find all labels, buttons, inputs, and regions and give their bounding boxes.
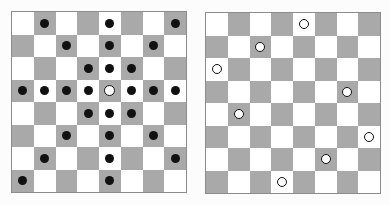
board-square[interactable] (358, 103, 380, 126)
board-square[interactable] (271, 126, 293, 149)
board-square[interactable] (143, 125, 165, 148)
board-square[interactable] (250, 81, 272, 104)
board-square[interactable] (56, 102, 78, 125)
board-square[interactable] (206, 81, 228, 104)
board-square[interactable] (164, 125, 186, 148)
board-square[interactable] (121, 57, 143, 80)
board-square[interactable] (337, 126, 359, 149)
board-square[interactable] (34, 170, 56, 193)
board-square[interactable] (228, 171, 250, 194)
board-square[interactable] (293, 171, 315, 194)
board-square[interactable] (337, 148, 359, 171)
board-square[interactable] (99, 170, 121, 193)
board-square[interactable] (99, 35, 121, 58)
board-square[interactable] (12, 170, 34, 193)
board-square[interactable] (164, 170, 186, 193)
board-square[interactable] (34, 102, 56, 125)
board-square[interactable] (56, 170, 78, 193)
board-square[interactable] (34, 147, 56, 170)
board-square[interactable] (121, 35, 143, 58)
board-square[interactable] (293, 126, 315, 149)
board-square[interactable] (206, 171, 228, 194)
board-square[interactable] (77, 125, 99, 148)
board-square[interactable] (34, 57, 56, 80)
board-square[interactable] (293, 36, 315, 59)
board-square[interactable] (271, 81, 293, 104)
board-square[interactable] (337, 81, 359, 104)
board-square[interactable] (315, 103, 337, 126)
board-square[interactable] (77, 12, 99, 35)
board-square[interactable] (143, 147, 165, 170)
board-square[interactable] (143, 57, 165, 80)
board-square[interactable] (271, 103, 293, 126)
board-square[interactable] (206, 58, 228, 81)
board-square[interactable] (12, 125, 34, 148)
board-square[interactable] (143, 102, 165, 125)
board-square[interactable] (34, 125, 56, 148)
board-square[interactable] (99, 125, 121, 148)
board-square[interactable] (12, 80, 34, 103)
board-square[interactable] (293, 58, 315, 81)
board-square[interactable] (250, 171, 272, 194)
board-square[interactable] (228, 103, 250, 126)
board-square[interactable] (99, 147, 121, 170)
board-square[interactable] (358, 58, 380, 81)
board-square[interactable] (358, 126, 380, 149)
board-square[interactable] (228, 81, 250, 104)
board-square[interactable] (250, 103, 272, 126)
board-square[interactable] (121, 12, 143, 35)
board-square[interactable] (164, 35, 186, 58)
board-square[interactable] (56, 147, 78, 170)
board-square[interactable] (143, 170, 165, 193)
board-square[interactable] (337, 13, 359, 36)
board-square[interactable] (34, 35, 56, 58)
board-square[interactable] (271, 36, 293, 59)
board-square[interactable] (77, 147, 99, 170)
board-square[interactable] (121, 102, 143, 125)
board-square[interactable] (99, 80, 121, 103)
board-square[interactable] (228, 36, 250, 59)
board-square[interactable] (164, 57, 186, 80)
board-square[interactable] (250, 148, 272, 171)
board-square[interactable] (358, 36, 380, 59)
board-square[interactable] (164, 102, 186, 125)
board-square[interactable] (206, 103, 228, 126)
board-square[interactable] (293, 81, 315, 104)
board-square[interactable] (143, 35, 165, 58)
board-square[interactable] (206, 126, 228, 149)
board-square[interactable] (12, 35, 34, 58)
board-square[interactable] (12, 147, 34, 170)
board-square[interactable] (99, 102, 121, 125)
board-square[interactable] (12, 12, 34, 35)
board-square[interactable] (56, 80, 78, 103)
board-square[interactable] (99, 57, 121, 80)
board-square[interactable] (228, 13, 250, 36)
board-square[interactable] (271, 58, 293, 81)
board-square[interactable] (99, 12, 121, 35)
board-square[interactable] (293, 103, 315, 126)
board-square[interactable] (164, 80, 186, 103)
board-square[interactable] (250, 13, 272, 36)
board-square[interactable] (12, 57, 34, 80)
board-square[interactable] (315, 81, 337, 104)
board-square[interactable] (337, 171, 359, 194)
board-square[interactable] (315, 36, 337, 59)
board-square[interactable] (77, 57, 99, 80)
board-square[interactable] (77, 35, 99, 58)
board-square[interactable] (121, 80, 143, 103)
board-square[interactable] (293, 13, 315, 36)
board-square[interactable] (228, 58, 250, 81)
board-square[interactable] (315, 148, 337, 171)
board-square[interactable] (143, 80, 165, 103)
board-square[interactable] (337, 103, 359, 126)
board-square[interactable] (271, 13, 293, 36)
board-square[interactable] (250, 126, 272, 149)
board-square[interactable] (206, 36, 228, 59)
board-square[interactable] (293, 148, 315, 171)
board-square[interactable] (56, 125, 78, 148)
board-square[interactable] (164, 147, 186, 170)
board-square[interactable] (337, 36, 359, 59)
board-square[interactable] (77, 170, 99, 193)
board-square[interactable] (358, 13, 380, 36)
board-square[interactable] (250, 58, 272, 81)
